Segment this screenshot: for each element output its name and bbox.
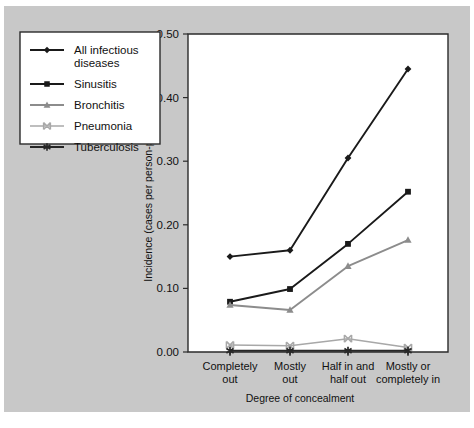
legend-label: Bronchitis [74,99,125,111]
x-tick-label: half out [330,373,366,385]
data-point-marker-square [405,189,411,195]
x-tick-label: completely in [376,373,440,385]
x-axis-title: Degree of concealment [246,392,355,404]
x-tick-label: Half in and [322,360,375,372]
x-tick-label: Mostly [274,360,306,372]
legend-label: Pneumonia [74,120,133,132]
y-tick-label: 0.20 [157,219,179,231]
x-tick-label: Mostly or [386,360,431,372]
legend-label: diseases [74,57,120,69]
data-point-marker-square [345,241,351,247]
data-point-marker-square [44,81,50,87]
data-point-marker-square [287,286,293,292]
y-tick-label: 0.00 [157,346,179,358]
x-tick-label: out [282,373,297,385]
figure-canvas: 0.000.100.200.300.400.50CompletelyoutMos… [4,6,470,412]
chart-legend: All infectiousdiseasesSinusitisBronchiti… [20,32,160,153]
x-tick-label: Completely [202,360,258,372]
y-tick-label: 0.10 [157,282,179,294]
legend-label: All infectious [74,44,139,56]
x-tick-label: out [222,373,237,385]
legend-label: Tuberculosis [74,141,139,153]
incidence-line-chart: 0.000.100.200.300.400.50CompletelyoutMos… [4,6,470,412]
y-tick-label: 0.30 [157,155,179,167]
legend-label: Sinusitis [74,78,117,90]
